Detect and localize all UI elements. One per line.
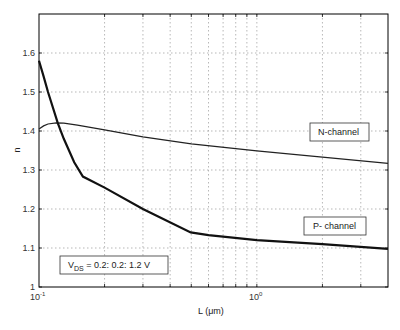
n-channel-label: N-channel (318, 127, 359, 137)
y-tick-label: 1 (30, 282, 35, 292)
p-channel-label: P- channel (313, 221, 356, 231)
vds-annotation-box: VDS = 0.2: 0.2: 1.2 V (60, 256, 168, 274)
y-axis-label: n (12, 147, 22, 152)
chart: 11.11.21.31.41.51.6 10-1 100 L (μm) n N-… (0, 0, 400, 330)
x-tick-label-1: 100 (249, 291, 263, 302)
y-tick-label: 1.5 (22, 87, 35, 97)
y-tick-label: 1.2 (22, 204, 35, 214)
x-tick-label-0: 10-1 (30, 291, 46, 302)
p-channel-label-box: P- channel (304, 217, 366, 235)
y-tick-label: 1.1 (22, 243, 35, 253)
y-tick-label: 1.6 (22, 48, 35, 58)
y-axis-ticks: 11.11.21.31.41.51.6 (22, 48, 388, 292)
n-channel-label-box: N-channel (310, 123, 369, 141)
x-axis-label: L (μm) (198, 306, 224, 316)
y-tick-label: 1.3 (22, 165, 35, 175)
y-tick-label: 1.4 (22, 126, 35, 136)
